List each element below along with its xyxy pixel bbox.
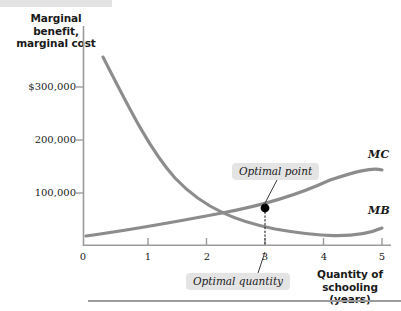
optimal-quantity-callout: Optimal quantity <box>186 273 290 290</box>
chart-figure: Marginal benefit, marginal cost Quantity… <box>0 0 401 311</box>
optimal-point-marker <box>261 204 270 213</box>
optimal-quantity-leader-line <box>258 252 265 273</box>
mc-curve-label: MC <box>368 148 390 161</box>
optimal-point-callout: Optimal point <box>232 163 319 180</box>
mb-curve-label: MB <box>368 204 390 217</box>
plot-area-svg <box>0 0 401 311</box>
bottom-divider-rule <box>88 300 401 302</box>
